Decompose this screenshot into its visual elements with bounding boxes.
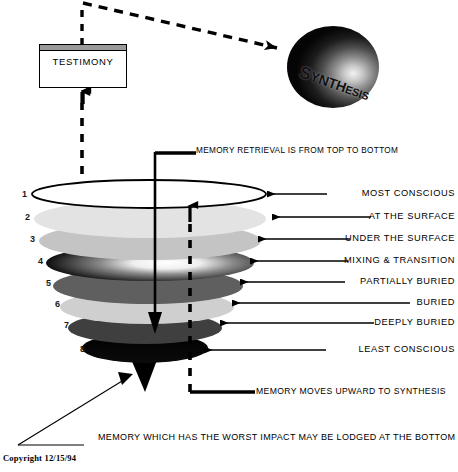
layer-label-buried: BURIED: [417, 297, 455, 307]
layer-label-under-the-surface: UNDER THE SURFACE: [345, 233, 455, 243]
disc-number-3: 3: [30, 234, 35, 244]
note-worst-impact: MEMORY WHICH HAS THE WORST IMPACT MAY BE…: [98, 432, 455, 442]
disc-number-5: 5: [46, 278, 51, 288]
disc-number-2: 2: [25, 212, 30, 222]
synthesis-sphere: SYNTHESIS: [287, 26, 379, 108]
layer-label-at-the-surface: AT THE SURFACE: [369, 211, 455, 221]
diagram-canvas: TESTIMONY SYNTHESIS 1 2 3 4 5 6 7 8 MOST…: [0, 0, 458, 472]
note-memory-retrieval: MEMORY RETRIEVAL IS FROM TOP TO BOTTOM: [196, 146, 398, 155]
layer-label-mixing-and-transition: MIXING & TRANSITION: [344, 255, 455, 265]
testimony-label: TESTIMONY: [39, 56, 127, 67]
disc-number-4: 4: [38, 256, 43, 266]
layer-label-deeply-buried: DEEPLY BURIED: [374, 317, 455, 327]
memory-riser-dashed-path: [82, 92, 173, 190]
copyright-notice: Copyright 12/15/94: [3, 453, 76, 463]
disc-1: [32, 180, 266, 208]
disc-number-1: 1: [22, 189, 27, 199]
disc-number-7: 7: [64, 320, 69, 330]
layer-label-least-conscious: LEAST CONSCIOUS: [359, 344, 455, 354]
layer-label-partially-buried: PARTIALLY BURIED: [360, 276, 455, 286]
disc-number-8: 8: [80, 344, 85, 354]
layer-label-most-conscious: MOST CONSCIOUS: [362, 188, 455, 198]
note-memory-moves-upward: MEMORY MOVES UPWARD TO SYNTHESIS: [256, 386, 446, 396]
disc-number-6: 6: [55, 299, 60, 309]
testimony-to-sphere-dashed-path: [82, 3, 277, 48]
testimony-titlebar: [39, 44, 127, 51]
